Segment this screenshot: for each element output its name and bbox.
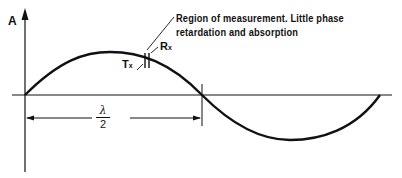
amplitude-label: A (8, 14, 17, 28)
axis-arrow-icon (22, 8, 29, 20)
receiver-letter: R (160, 40, 168, 52)
fraction-numerator: λ (96, 105, 110, 118)
transmitter-subscript: x (129, 62, 133, 69)
wave-diagram: A Region of measurement. Little phase re… (0, 0, 402, 178)
fraction-denominator: 2 (96, 118, 110, 130)
annotation-line-2: retardation and absorption (176, 25, 344, 39)
receiver-subscript: x (168, 44, 172, 51)
half-wavelength-label: λ 2 (96, 105, 110, 130)
annotation-line-1: Region of measurement. Little phase (176, 11, 344, 25)
measurement-annotation: Region of measurement. Little phase reta… (176, 11, 344, 39)
receiver-label: Rx (160, 40, 172, 52)
arrow-left-icon (26, 116, 34, 121)
transmitter-label: Tx (122, 58, 133, 70)
receiver-leader (151, 47, 158, 53)
transmitter-leader (137, 64, 143, 70)
transmitter-letter: T (122, 58, 129, 70)
arrow-right-icon (193, 116, 201, 121)
